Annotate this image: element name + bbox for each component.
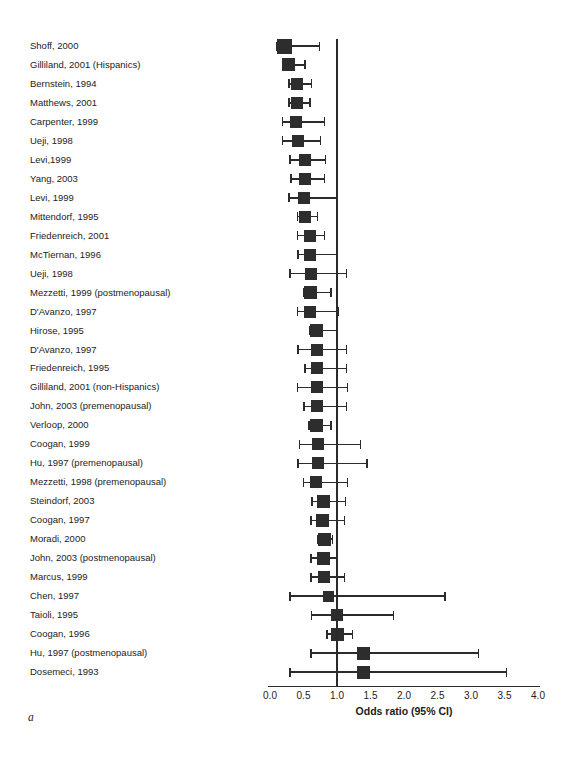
- ci-upper-cap: [344, 516, 346, 525]
- odds-ratio-marker: [310, 419, 323, 432]
- figure-panel-label: a: [28, 711, 34, 723]
- study-label: Friedenreich, 1995: [30, 362, 109, 374]
- study-label: Bernstein, 1994: [30, 78, 97, 90]
- ci-lower-cap: [303, 478, 305, 487]
- x-axis-tick-label: 0.0: [263, 690, 277, 701]
- ci-lower-cap: [288, 98, 290, 107]
- ci-upper-cap: [347, 383, 349, 392]
- ci-upper-cap: [338, 307, 340, 316]
- odds-ratio-marker: [282, 58, 295, 71]
- ci-upper-cap: [344, 573, 346, 582]
- ci-upper-cap: [304, 60, 306, 69]
- odds-ratio-marker: [291, 78, 303, 90]
- ci-lower-cap: [282, 136, 284, 145]
- ci-upper-cap: [324, 117, 326, 126]
- ci-lower-cap: [289, 269, 291, 278]
- study-label: Chen, 1997: [30, 590, 79, 602]
- x-axis-tick-label: 1.0: [330, 690, 344, 701]
- ci-lower-cap: [310, 516, 312, 525]
- ci-upper-cap: [325, 155, 327, 164]
- ci-upper-cap: [330, 288, 332, 297]
- study-label: Yang, 2003: [30, 173, 78, 185]
- odds-ratio-marker: [299, 173, 311, 185]
- ci-lower-cap: [288, 79, 290, 88]
- study-label: John, 2003 (postmenopausal): [30, 552, 156, 564]
- ci-lower-cap: [289, 668, 291, 677]
- study-label: Steindorf, 2003: [30, 495, 94, 507]
- ci-lower-cap: [297, 250, 299, 259]
- ci-upper-cap: [360, 440, 362, 449]
- odds-ratio-marker: [317, 552, 330, 565]
- odds-ratio-marker: [290, 116, 302, 128]
- ci-upper-cap: [320, 136, 322, 145]
- study-label: Mezzetti, 1998 (premenopausal): [30, 476, 166, 488]
- x-axis-tick-label: 4.0: [531, 690, 545, 701]
- odds-ratio-marker: [316, 514, 329, 527]
- ci-lower-cap: [297, 345, 299, 354]
- ci-lower-cap: [311, 611, 313, 620]
- ci-lower-cap: [288, 193, 290, 202]
- odds-ratio-marker: [304, 230, 316, 242]
- x-axis-tick-label: 1.5: [364, 690, 378, 701]
- odds-ratio-marker: [277, 39, 292, 54]
- study-label: Matthews, 2001: [30, 97, 97, 109]
- odds-ratio-marker: [312, 438, 324, 450]
- odds-ratio-marker: [299, 211, 311, 223]
- study-label: Ueji, 1998: [30, 135, 73, 147]
- study-label: Gilliland, 2001 (Hispanics): [30, 59, 140, 71]
- ci-lower-cap: [297, 231, 299, 240]
- study-label: Hirose, 1995: [30, 325, 84, 337]
- x-axis-tick-label: 0.5: [297, 690, 311, 701]
- odds-ratio-marker: [304, 249, 316, 261]
- odds-ratio-marker: [311, 400, 323, 412]
- x-axis-tick-label: 3.0: [464, 690, 478, 701]
- ci-upper-cap: [393, 611, 395, 620]
- study-label: D'Avanzo, 1997: [30, 306, 97, 318]
- ci-lower-cap: [310, 649, 312, 658]
- confidence-interval-line: [289, 197, 337, 199]
- confidence-interval-line: [290, 671, 506, 673]
- ci-upper-cap: [346, 364, 348, 373]
- ci-lower-cap: [311, 497, 313, 506]
- confidence-interval-line: [312, 614, 394, 616]
- odds-ratio-marker: [310, 324, 323, 337]
- study-label: Mezzetti, 1999 (postmenopausal): [30, 287, 170, 299]
- odds-ratio-marker: [323, 591, 334, 602]
- x-axis-tick-label: 2.0: [397, 690, 411, 701]
- study-label: Levi, 1999: [30, 192, 74, 204]
- ci-upper-cap: [346, 269, 348, 278]
- odds-ratio-marker: [304, 286, 317, 299]
- ci-lower-cap: [297, 383, 299, 392]
- ci-lower-cap: [310, 554, 312, 563]
- ci-upper-cap: [319, 42, 321, 51]
- reference-line-or-1: [336, 39, 338, 686]
- ci-upper-cap: [309, 98, 311, 107]
- ci-lower-cap: [297, 307, 299, 316]
- study-label: Carpenter, 1999: [30, 116, 98, 128]
- confidence-interval-line: [298, 463, 367, 465]
- ci-upper-cap: [346, 345, 348, 354]
- study-label: Hu, 1997 (premenopausal): [30, 457, 143, 469]
- study-label: Dosemeci, 1993: [30, 666, 99, 678]
- ci-lower-cap: [289, 155, 291, 164]
- study-label: John, 2003 (premenopausal): [30, 400, 151, 412]
- odds-ratio-marker: [305, 268, 317, 280]
- ci-lower-cap: [282, 117, 284, 126]
- confidence-interval-line: [283, 121, 325, 123]
- study-label: Ueji, 1998: [30, 268, 73, 280]
- study-label: Coogan, 1999: [30, 438, 90, 450]
- ci-upper-cap: [347, 478, 349, 487]
- confidence-interval-line: [290, 273, 346, 275]
- ci-upper-cap: [366, 459, 368, 468]
- ci-upper-cap: [317, 212, 319, 221]
- ci-upper-cap: [330, 421, 332, 430]
- ci-lower-cap: [297, 459, 299, 468]
- odds-ratio-marker: [310, 476, 322, 488]
- odds-ratio-marker: [312, 457, 324, 469]
- ci-lower-cap: [326, 630, 328, 639]
- ci-upper-cap: [332, 535, 334, 544]
- odds-ratio-marker: [311, 362, 323, 374]
- ci-lower-cap: [290, 174, 292, 183]
- x-axis-tick-label: 3.5: [498, 690, 512, 701]
- study-label: Coogan, 1997: [30, 514, 90, 526]
